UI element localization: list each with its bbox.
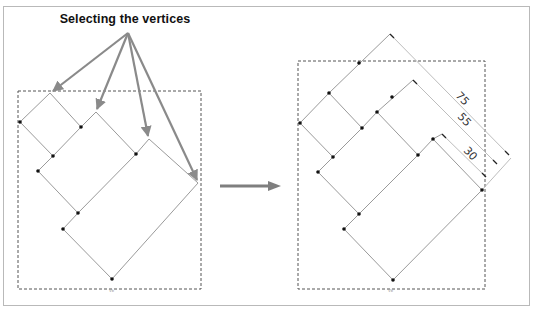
dimension-55: 55 [455,110,474,129]
right-panel: 75 55 30 Vb [298,34,511,293]
transition-arrow [220,181,281,191]
dimension-30: 30 [461,144,480,163]
callout-arrows [53,33,197,180]
diagram-canvas: Vb [0,0,533,312]
dimension-75: 75 [453,89,472,108]
shape-outline-right [300,34,482,280]
shape-outline-left [20,93,198,279]
box-label-right: Vb [388,288,394,293]
vertices-left [18,120,138,281]
dimension-lines [390,34,511,190]
left-panel: Vb [18,33,201,293]
box-label-left: Vb [109,288,115,293]
selection-box-left [18,91,201,289]
